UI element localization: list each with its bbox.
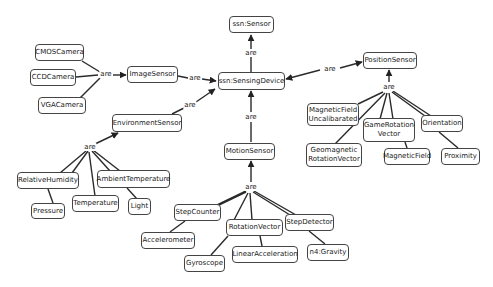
node-label: Accelerometer [143, 236, 194, 245]
node-n4-gravity: n4:Gravity [307, 244, 349, 261]
node-step-counter: StepCounter [174, 204, 221, 221]
node-label: Temperature [73, 199, 117, 208]
node-label: StepDetector [286, 218, 332, 227]
node-label: MotionSensor [226, 147, 274, 156]
node-label: AmbientTemperature [97, 175, 171, 184]
node-light: Light [128, 198, 151, 215]
relation-label: are [244, 49, 257, 57]
node-linear-acceleration: LinearAcceleration [232, 246, 298, 263]
node-label: ssn:SensingDevice [219, 77, 285, 86]
node-label: Pressure [33, 207, 63, 216]
ontology-diagram: are are are are are are are are are ssn:… [0, 0, 493, 287]
node-label: MagneticField [383, 152, 431, 161]
relation-label: are [183, 101, 196, 109]
node-label-line1: Geomagnetic [311, 146, 358, 155]
node-temperature: Temperature [72, 195, 119, 212]
node-label: CCDCamera [32, 73, 75, 82]
node-label: RotationVector [229, 223, 281, 232]
node-label: ImageSensor [130, 70, 176, 79]
node-gyroscope: Gyroscope [184, 255, 225, 272]
node-rotation-vector: RotationVector [226, 219, 283, 236]
relation-label: are [323, 65, 336, 73]
relation-label: are [244, 183, 257, 191]
node-proximity: Proximity [441, 148, 480, 165]
node-ccd-camera: CCDCamera [30, 69, 76, 86]
node-label-line1: MagneticField [309, 106, 357, 115]
node-label: RelativeHumidity [18, 176, 78, 185]
node-label: Light [131, 202, 148, 211]
node-label: Orientation [422, 119, 462, 128]
node-label: StepCounter [176, 208, 220, 217]
node-label: ssn:Sensor [232, 20, 270, 29]
node-label: LinearAcceleration [232, 250, 297, 259]
node-label: CMOSCamera [35, 48, 83, 57]
node-ssn-sensor: ssn:Sensor [229, 16, 274, 33]
node-label-line2: Vector [378, 130, 400, 139]
relation-label: are [382, 83, 395, 91]
node-label-line2: RotationVector [308, 155, 360, 164]
node-label: PositionSensor [364, 56, 415, 65]
node-motion-sensor: MotionSensor [224, 143, 275, 160]
relation-label: are [83, 143, 96, 151]
node-label: Proximity [444, 152, 477, 161]
node-magnetic-field: MagneticField [384, 148, 430, 165]
node-ambient-temperature: AmbientTemperature [97, 170, 170, 188]
node-relative-humidity: RelativeHumidity [17, 172, 79, 189]
node-game-rotation-vector: GameRotationVector [363, 118, 415, 142]
node-vga-camera: VGACamera [38, 97, 86, 114]
node-step-detector: StepDetector [285, 214, 334, 231]
node-accelerometer: Accelerometer [141, 232, 195, 249]
node-ssn-sensing-device: ssn:SensingDevice [218, 72, 285, 90]
node-pressure: Pressure [31, 203, 65, 219]
node-orientation: Orientation [421, 115, 463, 132]
relation-label: are [244, 113, 257, 121]
node-position-sensor: PositionSensor [363, 52, 417, 69]
node-label-line2: Uncalibarated [309, 115, 358, 124]
node-image-sensor: ImageSensor [127, 66, 178, 83]
node-label: n4:Gravity [310, 248, 347, 257]
node-label-line1: GameRotation [364, 121, 414, 130]
node-label: VGACamera [41, 101, 83, 110]
node-environment-sensor: EnvironmentSensor [112, 114, 182, 132]
node-label: Gyroscope [186, 259, 223, 268]
node-cmos-camera: CMOSCamera [35, 44, 84, 61]
node-magnetic-field-uncalibrated: MagneticFieldUncalibarated [307, 103, 359, 126]
node-geomagnetic-rotation-vector: GeomagneticRotationVector [306, 143, 362, 167]
relation-label: are [99, 70, 112, 78]
relation-label: are [188, 74, 201, 82]
node-label: EnvironmentSensor [113, 119, 182, 128]
